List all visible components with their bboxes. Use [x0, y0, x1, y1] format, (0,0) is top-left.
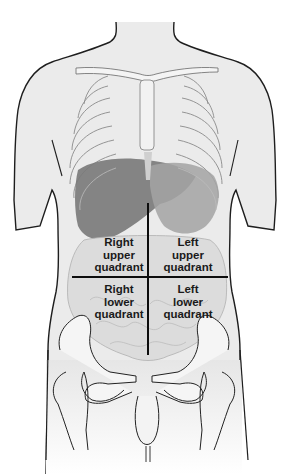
label-line: Right — [83, 283, 155, 296]
genital-outline — [135, 396, 159, 445]
label-line: quadrant — [152, 261, 224, 274]
sternum — [140, 80, 154, 150]
label-line: quadrant — [83, 308, 155, 321]
label-line: quadrant — [152, 308, 224, 321]
abdominal-quadrants-diagram: Right upper quadrant Left upper quadrant… — [0, 0, 287, 474]
label-right-upper-quadrant: Right upper quadrant — [83, 236, 155, 274]
label-right-lower-quadrant: Right lower quadrant — [83, 283, 155, 321]
label-left-lower-quadrant: Left lower quadrant — [152, 283, 224, 321]
label-line: lower — [152, 296, 224, 309]
label-line: upper — [83, 249, 155, 262]
label-line: lower — [83, 296, 155, 309]
label-line: Right — [83, 236, 155, 249]
label-line: quadrant — [83, 261, 155, 274]
label-line: Left — [152, 283, 224, 296]
label-left-upper-quadrant: Left upper quadrant — [152, 236, 224, 274]
label-line: upper — [152, 249, 224, 262]
label-line: Left — [152, 236, 224, 249]
